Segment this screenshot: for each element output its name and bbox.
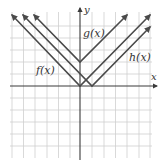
- function-graph: x y f(x) g(x) h(x): [0, 0, 162, 167]
- y-axis-label: y: [83, 4, 90, 15]
- x-axis-label: x: [151, 71, 157, 82]
- h-label: h(x): [129, 51, 151, 64]
- g-label: g(x): [83, 27, 105, 40]
- f-label: f(x): [35, 64, 55, 77]
